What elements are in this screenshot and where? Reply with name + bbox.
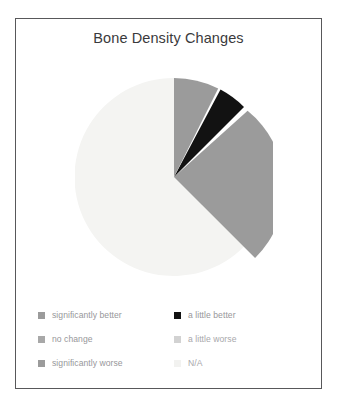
legend-item-a-little-worse[interactable]: a little worse [174, 327, 300, 351]
legend-item-significantly-worse[interactable]: significantly worse [38, 351, 174, 375]
legend-label: N/A [188, 358, 202, 368]
legend-item-na[interactable]: N/A [174, 351, 300, 375]
legend-label: no change [52, 334, 93, 344]
legend-label: a little better [188, 310, 236, 320]
legend-swatch-icon [38, 336, 45, 343]
legend-swatch-icon [38, 312, 45, 319]
legend-label: a little worse [188, 334, 236, 344]
legend-label: significantly worse [52, 358, 123, 368]
legend-label: significantly better [52, 310, 122, 320]
chart-legend: significantly better a little better no … [38, 303, 300, 375]
legend-swatch-icon [174, 360, 181, 367]
legend-item-significantly-better[interactable]: significantly better [38, 303, 174, 327]
pie-svg [75, 78, 273, 276]
legend-swatch-icon [174, 312, 181, 319]
legend-swatch-icon [38, 360, 45, 367]
legend-item-no-change[interactable]: no change [38, 327, 174, 351]
pie-chart-card: Bone Density Changes significantly bette… [0, 0, 337, 405]
chart-title: Bone Density Changes [0, 30, 337, 46]
pie-chart-plot-area [75, 78, 273, 276]
legend-swatch-icon [174, 336, 181, 343]
legend-item-a-little-better[interactable]: a little better [174, 303, 300, 327]
